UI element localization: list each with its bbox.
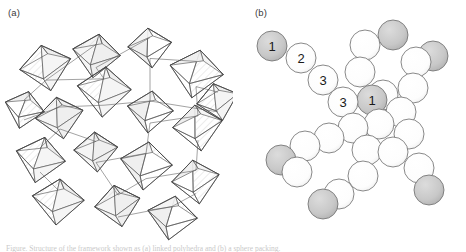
octahedron: [128, 28, 172, 68]
sphere-label: 3: [339, 95, 346, 110]
polyhedra-drawing: [0, 0, 233, 252]
octahedron: [16, 137, 65, 182]
panel-a-polyhedral-framework: (a): [0, 0, 233, 252]
octahedron: [77, 67, 131, 117]
sphere-s02: 2: [286, 43, 316, 73]
sphere-s06: [350, 30, 380, 60]
figure-caption: Figure. Structure of the framework shown…: [6, 245, 281, 252]
sphere-s26: [414, 175, 444, 205]
sphere-label: 2: [297, 51, 304, 66]
octahedron: [5, 92, 44, 129]
octahedron: [128, 91, 174, 133]
octahedron: [32, 179, 84, 225]
sphere-s23: [308, 189, 338, 219]
octahedron: [95, 185, 140, 226]
figure-container: (a) (b): [0, 0, 466, 252]
octahedron: [36, 97, 83, 138]
sphere-s10: [401, 47, 431, 77]
sphere-s14: [364, 109, 394, 139]
sphere-s20: [352, 135, 382, 165]
sphere-label: 1: [268, 39, 275, 54]
octahedron: [172, 160, 219, 204]
sphere-s01: 1: [257, 31, 287, 61]
polyhedra-group: [5, 28, 233, 240]
panel-b-sphere-packing: (b) 12313: [233, 0, 466, 252]
sphere-s08: [345, 57, 375, 87]
sphere-s24: [378, 137, 408, 167]
sphere-s07: [378, 20, 408, 50]
sphere-s19: [282, 157, 312, 187]
octahedron: [148, 196, 197, 240]
sphere-group: 12313: [257, 20, 448, 219]
sphere-label: 1: [368, 93, 375, 108]
sphere-s21: [348, 161, 378, 191]
caption-strip: Figure. Structure of the framework shown…: [0, 245, 466, 252]
octahedron: [74, 132, 118, 172]
sphere-packing-drawing: 12313: [233, 0, 466, 252]
sphere-label: 3: [319, 73, 326, 88]
sphere-s04: 3: [328, 87, 358, 117]
